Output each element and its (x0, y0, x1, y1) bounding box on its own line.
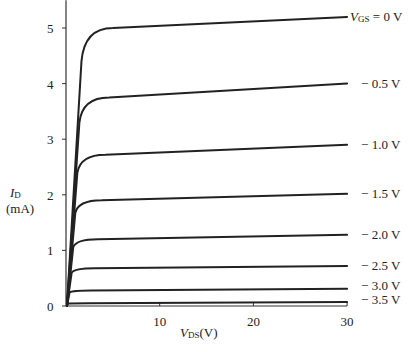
curve-label-vgs-4: − 2.0 V (361, 227, 401, 242)
axis-titles: ID (mA) VDS(V) (6, 185, 218, 340)
y-tick-label: 3 (47, 132, 54, 147)
x-tick-label: 10 (153, 314, 166, 329)
x-tick-label: 30 (341, 314, 354, 329)
axes: 012345102030 (47, 0, 354, 329)
curve-label-vgs-3: − 1.5 V (361, 186, 401, 201)
curve-label-vgs-0: VGS = 0 V (350, 9, 403, 24)
curve-vgs-4 (67, 235, 347, 306)
jfet-drain-characteristics-chart: 012345102030 VGS = 0 V− 0.5 V− 1.0 V− 1.… (0, 0, 412, 352)
curve-label-vgs-2: − 1.0 V (361, 137, 401, 152)
curve-labels: VGS = 0 V− 0.5 V− 1.0 V− 1.5 V− 2.0 V− 2… (350, 9, 403, 307)
curves (67, 17, 347, 306)
curve-label-vgs-6: − 3.0 V (361, 278, 401, 293)
curve-label-vgs-5: − 2.5 V (361, 258, 401, 273)
curve-label-vgs-7: − 3.5 V (361, 292, 401, 307)
y-tick-label: 2 (47, 188, 54, 203)
x-axis-title: VDS(V) (180, 325, 218, 340)
y-tick-label: 1 (47, 243, 54, 258)
curve-vgs-5 (67, 266, 347, 306)
y-tick-label: 0 (47, 299, 54, 314)
curve-vgs-0 (67, 17, 347, 306)
curve-label-vgs-1: − 0.5 V (361, 76, 401, 91)
y-tick-label: 5 (47, 21, 54, 36)
y-axis-title: ID (9, 185, 21, 200)
curve-vgs-2 (67, 145, 347, 306)
y-tick-label: 4 (47, 77, 54, 92)
x-tick-label: 20 (247, 314, 260, 329)
y-axis-unit: (mA) (6, 201, 34, 216)
